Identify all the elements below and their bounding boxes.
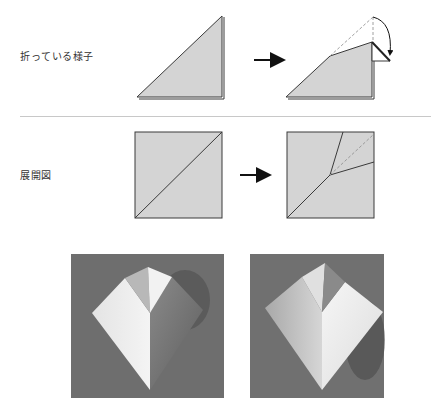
origami-photo-front bbox=[71, 254, 224, 398]
step1-folded-triangle bbox=[137, 16, 224, 99]
crease-pattern-diagonal bbox=[135, 132, 222, 218]
crease-pattern-fold-lines bbox=[287, 132, 374, 218]
step2-reverse-fold-shape bbox=[286, 17, 390, 99]
origami-photo-angle bbox=[250, 254, 385, 398]
